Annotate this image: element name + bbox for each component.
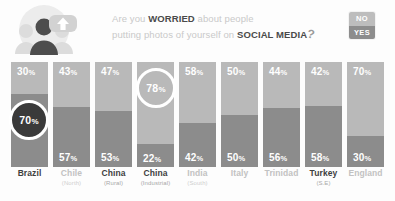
bar-value-no: 44% [269,66,287,77]
bar-value-yes: 42% [185,152,203,163]
category-label-name: Chile [53,169,90,179]
bar-segment-no: 47% [95,62,132,111]
category-label: Brazil [11,169,48,199]
legend: NO YES [349,12,375,39]
question-mark-icon: ? [306,26,316,43]
bar-segment-no: 58% [179,62,216,123]
bar-segment-no: 70% [347,62,384,136]
category-label-sub: (Industrial) [137,180,174,187]
bar-columns: 30%70%43%57%47%53%22%78%58%42%50%50%44%5… [11,62,384,167]
category-label: Trinidad [263,169,300,199]
bar-value-yes: 58% [311,152,329,163]
bar-column: 43%57% [53,62,90,167]
bar-segment-no: 43% [53,62,90,107]
bar-segment-yes: 53% [95,111,132,167]
header: Are you WORRIED about people putting pho… [0,0,395,58]
bar-segment-no: 44% [263,62,300,108]
category-label-name: China [137,169,174,179]
legend-label-no: NO [356,14,368,23]
bar-column: 22%78% [137,62,174,167]
category-label-sub: (North) [53,180,90,187]
stacked-bar-chart: 30%70%43%57%47%53%22%78%58%42%50%50%44%5… [0,58,395,201]
bar-segment-no: 50% [221,62,258,115]
bar-segment-yes: 42% [179,123,216,167]
category-label-name: Brazil [11,169,48,179]
bar-value-no: 47% [101,66,119,77]
category-label-name: China [95,169,132,179]
bar-value-yes: 53% [101,152,119,163]
highlight-circle: 70% [9,100,49,140]
category-label-name: India [179,169,216,179]
bar-value-no: 50% [227,66,245,77]
category-label-name: England [347,169,384,179]
headline-line1-post: about people [195,13,254,24]
bar-segment-yes: 56% [263,108,300,167]
bar-segment-yes: 22% [137,144,174,167]
category-label-sub: (Rural) [95,180,132,187]
category-label: England [347,169,384,199]
headline-social-media: SOCIAL MEDIA [237,29,307,40]
category-label-sub: (S.E) [305,180,342,187]
bar-segment-yes: 50% [221,115,258,168]
bar-column: 58%42% [179,62,216,167]
bar-value-no: 70% [353,66,371,77]
bar-column: 44%56% [263,62,300,167]
category-label-sub: (South) [179,180,216,187]
category-label: Italy [221,169,258,199]
bar-value-no: 30% [17,66,35,77]
bar-value-yes: 56% [269,152,287,163]
bar-column: 50%50% [221,62,258,167]
category-label-name: Turkey [305,169,342,179]
legend-item-yes: YES [349,26,375,40]
bar-column: 70%30% [347,62,384,167]
bar-value-yes: 50% [227,152,245,163]
bar-segment-no: 30% [11,62,48,94]
bar-column: 47%53% [95,62,132,167]
bar-column: 42%58% [305,62,342,167]
headline-worried: WORRIED [148,13,195,24]
category-label: India(South) [179,169,216,199]
bar-value-yes: 57% [59,152,77,163]
bar-value-no: 42% [311,66,329,77]
bar-value-no: 58% [185,66,203,77]
legend-label-yes: YES [354,28,370,37]
bar-value-yes: 22% [143,153,161,164]
headline-line2-pre: putting photos of yourself on [112,29,237,40]
highlight-value: 78% [146,82,165,94]
legend-item-no: NO [349,12,375,26]
category-label: China(Industrial) [137,169,174,199]
category-labels: BrazilChile(North)China(Rural)China(Indu… [11,169,384,199]
category-label: China(Rural) [95,169,132,199]
bar-segment-yes: 57% [53,107,90,167]
category-label: Chile(North) [53,169,90,199]
headline-line1-pre: Are you [112,13,148,24]
category-label: Turkey(S.E) [305,169,342,199]
bar-segment-no: 42% [305,62,342,106]
bar-column: 30%70% [11,62,48,167]
bar-value-yes: 30% [353,152,371,163]
bar-value-no: 43% [59,66,77,77]
headline: Are you WORRIED about people putting pho… [112,11,344,42]
category-label-name: Trinidad [263,169,300,179]
bar-segment-yes: 30% [347,136,384,168]
category-label-name: Italy [221,169,258,179]
highlight-value: 70% [19,114,38,126]
bar-segment-yes: 58% [305,106,342,167]
infographic-root: Are you WORRIED about people putting pho… [0,0,395,201]
upload-arrow-icon [48,12,78,34]
